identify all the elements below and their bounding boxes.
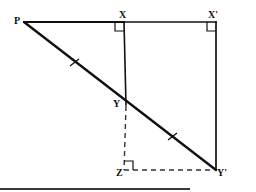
vertex-label-X-prime: X': [208, 10, 218, 20]
diagram-canvas: P X X' Y Z Y': [0, 0, 256, 192]
vertex-label-P: P: [14, 16, 20, 26]
vertex-label-Y-prime: Y': [217, 168, 227, 178]
vertex-label-Z: Z: [116, 168, 123, 178]
right-angle-marker-Z: [124, 161, 133, 170]
geometry-figure: [0, 0, 256, 192]
right-angle-marker-Xprime: [207, 22, 216, 31]
segment-XY: [124, 22, 126, 105]
vertex-label-Y: Y: [113, 99, 120, 109]
vertex-label-X: X: [119, 10, 126, 20]
page-divider-rule: [0, 188, 190, 190]
segment-PYprime: [24, 22, 216, 170]
right-angle-marker-X: [115, 22, 124, 31]
